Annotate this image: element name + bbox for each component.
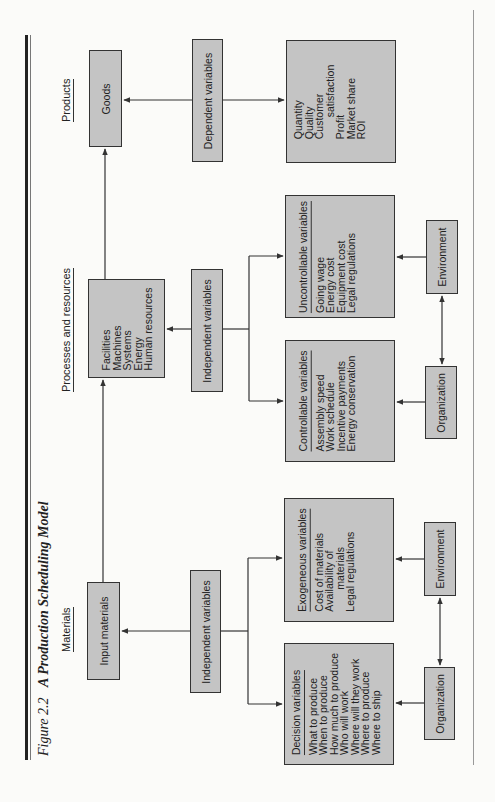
- organization-upper-box: Organization: [425, 366, 457, 439]
- decision-variables-list: Decision variables What to produce When …: [291, 653, 381, 755]
- goods-box: Goods: [89, 50, 122, 147]
- exogeneous-variables-list: Exogeneous variables Cost of materials A…: [297, 508, 356, 611]
- exogeneous-variables-box: Exogeneous variables Cost of materials A…: [284, 498, 394, 622]
- organization-upper-label: Organization: [436, 373, 447, 433]
- environment-upper-label: Environment: [437, 228, 448, 287]
- environment-lower-label: Environment: [435, 530, 446, 589]
- input-materials-label: Input materials: [98, 597, 109, 666]
- independent-variables-upper-label: Independent variables: [202, 279, 213, 382]
- decision-variables-box: Decision variables What to produce When …: [284, 643, 394, 765]
- outcomes-list: Quantity Quality Customer satisfaction P…: [293, 64, 367, 139]
- uncontrollable-heading: Uncontrollable variables: [298, 200, 312, 312]
- controllable-heading: Controllable variables: [298, 351, 312, 452]
- organization-lower-box: Organization: [424, 667, 455, 740]
- organization-lower-label: Organization: [434, 674, 445, 734]
- environment-lower-box: Environment: [424, 522, 456, 596]
- uncontrollable-variables-box: Uncontrollable variables Going wage Ener…: [285, 195, 395, 318]
- independent-variables-lower-label: Independent variables: [200, 580, 211, 683]
- controllable-variables-list: Controllable variables Assembly speed Wo…: [298, 351, 357, 452]
- dependent-variables-box: Dependent variables: [192, 39, 223, 162]
- outcomes-box: Quantity Quality Customer satisfaction P…: [286, 40, 396, 163]
- exogeneous-heading: Exogeneous variables: [297, 508, 311, 611]
- connector-lines: [0, 0, 495, 802]
- uncontrollable-variables-list: Uncontrollable variables Going wage Ener…: [298, 200, 357, 312]
- environment-upper-box: Environment: [426, 220, 458, 294]
- independent-variables-lower-box: Independent variables: [190, 570, 221, 693]
- decision-heading: Decision variables: [291, 670, 305, 755]
- input-materials-box: Input materials: [87, 582, 120, 680]
- dependent-variables-label: Dependent variables: [202, 52, 213, 148]
- goods-label: Goods: [100, 83, 111, 114]
- independent-variables-upper-box: Independent variables: [191, 269, 223, 392]
- resources-box: Facilities Machines Systems Energy Human…: [88, 279, 165, 378]
- controllable-variables-box: Controllable variables Assembly speed Wo…: [285, 340, 395, 462]
- resources-list: Facilities Machines Systems Energy Human…: [100, 287, 153, 370]
